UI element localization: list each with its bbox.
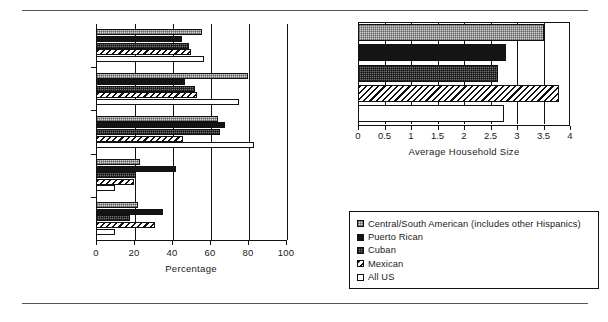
legend-swatch-icon bbox=[357, 260, 364, 267]
left-x-tick bbox=[96, 240, 97, 245]
right-bar bbox=[358, 105, 504, 122]
right-x-tick-label: 0 bbox=[355, 130, 360, 141]
right-x-tick-label: 4 bbox=[567, 130, 572, 141]
right-bar bbox=[358, 85, 559, 102]
left-bar bbox=[96, 122, 225, 128]
left-gridline bbox=[249, 24, 250, 240]
right-x-tick-label: 1 bbox=[408, 130, 413, 141]
legend-swatch-icon bbox=[357, 274, 364, 281]
left-bar bbox=[96, 202, 138, 208]
legend-item-label: Mexican bbox=[368, 259, 403, 269]
household-size-bar-chart: 00.511.522.533.54 Average Household Size bbox=[346, 16, 594, 166]
left-x-tick-label: 20 bbox=[129, 247, 140, 258]
left-category-tick bbox=[91, 154, 96, 155]
left-x-tick-label: 40 bbox=[167, 247, 178, 258]
right-gridline bbox=[544, 22, 545, 124]
left-bar bbox=[96, 172, 136, 178]
left-bar bbox=[96, 99, 239, 105]
left-bar bbox=[96, 209, 163, 215]
legend-item: Cuban bbox=[357, 244, 592, 257]
left-bar bbox=[96, 79, 185, 85]
left-bar bbox=[96, 185, 115, 191]
left-bar bbox=[96, 222, 155, 228]
left-x-tick bbox=[134, 240, 135, 245]
right-x-tick-label: 2.5 bbox=[484, 130, 497, 141]
right-x-tick-label: 3 bbox=[514, 130, 519, 141]
left-x-axis-title: Percentage bbox=[96, 263, 286, 274]
legend-item-label: Puerto Rican bbox=[368, 232, 423, 242]
legend-swatch-icon bbox=[357, 247, 364, 254]
right-bar bbox=[358, 44, 506, 61]
top-divider-rule bbox=[22, 10, 588, 11]
left-bar bbox=[96, 86, 195, 92]
left-bar bbox=[96, 166, 176, 172]
left-bar bbox=[96, 36, 182, 42]
left-bar bbox=[96, 142, 254, 148]
left-x-tick bbox=[210, 240, 211, 245]
left-category-tick bbox=[91, 197, 96, 198]
left-bar bbox=[96, 73, 248, 79]
right-bar bbox=[358, 65, 498, 82]
left-x-tick-label: 0 bbox=[93, 247, 98, 258]
legend-swatch-icon bbox=[357, 220, 364, 227]
left-bar bbox=[96, 29, 202, 35]
left-x-axis-line bbox=[96, 240, 286, 241]
legend-item: Central/South American (includes other H… bbox=[357, 217, 592, 230]
legend-item-label: Cuban bbox=[368, 245, 396, 255]
left-x-tick-label: 60 bbox=[205, 247, 216, 258]
right-x-tick-label: 2 bbox=[461, 130, 466, 141]
left-x-tick bbox=[248, 240, 249, 245]
left-bar bbox=[96, 49, 191, 55]
legend-item-label: All US bbox=[368, 272, 394, 282]
left-bar bbox=[96, 229, 115, 235]
left-bar bbox=[96, 136, 183, 142]
percentage-bar-chart: 020406080100 Female Labor ForceMale Labo… bbox=[0, 16, 330, 284]
left-bar bbox=[96, 215, 130, 221]
left-gridline bbox=[287, 24, 288, 240]
left-x-tick bbox=[286, 240, 287, 245]
left-x-tick bbox=[172, 240, 173, 245]
left-bar bbox=[96, 179, 134, 185]
bottom-divider-rule bbox=[22, 303, 588, 304]
left-bar bbox=[96, 116, 218, 122]
chart-legend: Central/South American (includes other H… bbox=[349, 211, 599, 289]
right-x-tick-label: 1.5 bbox=[431, 130, 444, 141]
legend-item-label: Central/South American (includes other H… bbox=[368, 219, 581, 229]
left-category-tick bbox=[91, 110, 96, 111]
legend-item: Puerto Rican bbox=[357, 230, 592, 243]
left-bar bbox=[96, 92, 197, 98]
left-bar bbox=[96, 43, 189, 49]
left-bar bbox=[96, 129, 220, 135]
left-x-tick-label: 80 bbox=[243, 247, 254, 258]
left-bar bbox=[96, 159, 140, 165]
right-x-tick-label: 3.5 bbox=[537, 130, 550, 141]
left-bar bbox=[96, 56, 204, 62]
legend-swatch-icon bbox=[357, 234, 364, 241]
right-x-axis-title: Average Household Size bbox=[358, 146, 570, 157]
left-category-tick bbox=[91, 67, 96, 68]
left-x-tick-label: 100 bbox=[278, 247, 294, 258]
legend-item: All US bbox=[357, 271, 592, 284]
legend-item: Mexican bbox=[357, 257, 592, 270]
right-bar bbox=[358, 24, 544, 41]
right-x-tick-label: 0.5 bbox=[378, 130, 391, 141]
